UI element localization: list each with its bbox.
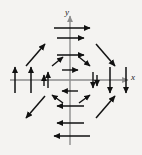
vector-arrow-inner (79, 95, 90, 103)
y-axis-label: y (65, 8, 69, 17)
vector-arrow-inner (52, 95, 63, 103)
vector-field-figure: y x (0, 0, 142, 155)
vector-field-plot (0, 0, 142, 155)
x-axis-label: x (131, 73, 135, 82)
vector-arrow-inner (79, 57, 90, 66)
vector-arrow (96, 96, 115, 118)
vector-arrow (96, 44, 115, 66)
vector-arrow (26, 96, 45, 118)
vector-arrow-inner (52, 57, 63, 66)
vector-arrow (26, 44, 45, 66)
